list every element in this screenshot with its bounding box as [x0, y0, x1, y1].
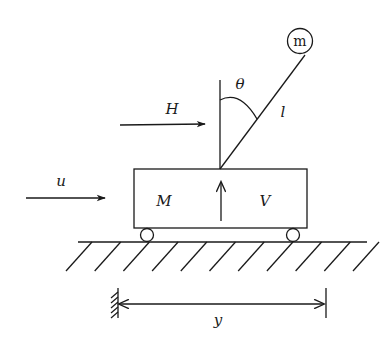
angle-arc — [220, 97, 257, 119]
length-label: l — [281, 103, 286, 121]
pendulum-mass-label: m — [293, 33, 306, 49]
input-force-label: u — [56, 172, 66, 190]
displacement-label: y — [213, 311, 223, 329]
left-wheel — [141, 229, 154, 242]
ground-hatch-line — [353, 242, 379, 271]
angle-label: θ — [235, 75, 244, 93]
cart-mass-label: M — [155, 192, 172, 210]
wall-hatch-line — [111, 297, 118, 303]
vertical-force-label: V — [260, 192, 273, 210]
ground-hatch-line — [152, 242, 178, 271]
pendulum-bob: m — [288, 29, 313, 54]
wall-hatch-line — [111, 307, 118, 313]
ground-hatch-line — [181, 242, 207, 271]
ground-hatch-line — [123, 242, 149, 271]
ground-hatch-line — [95, 242, 121, 271]
horizontal-force-label: H — [164, 100, 179, 118]
ground-hatch-line — [324, 242, 350, 271]
ground-hatch-line — [267, 242, 293, 271]
ground-hatch-line — [296, 242, 322, 271]
pendulum-rod — [220, 55, 305, 169]
fixed-reference-hatching — [111, 292, 118, 318]
ground-hatch-line — [66, 242, 92, 271]
ground-hatching — [66, 242, 379, 271]
wall-hatch-line — [111, 302, 118, 308]
pendulum-cart-diagram: m θ l H u M V y — [0, 0, 383, 341]
ground-hatch-line — [238, 242, 264, 271]
wall-hatch-line — [111, 292, 118, 298]
horizontal-force-arrow — [120, 124, 205, 125]
ground-hatch-line — [210, 242, 236, 271]
wall-hatch-line — [111, 312, 118, 318]
right-wheel — [287, 229, 300, 242]
